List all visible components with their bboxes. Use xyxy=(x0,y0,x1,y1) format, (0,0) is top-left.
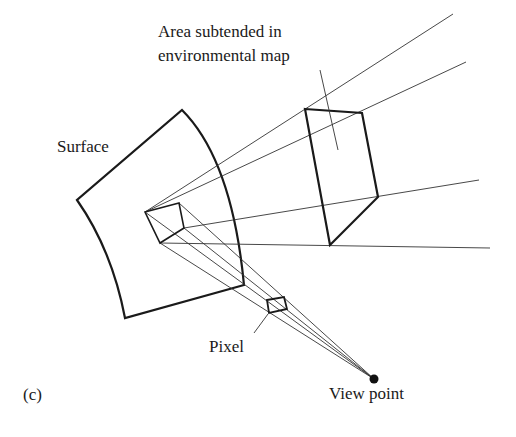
area-label-line2: environmental map xyxy=(158,46,290,66)
viewpoint-label: View point xyxy=(329,384,404,404)
view-rays xyxy=(145,203,374,379)
pixel-label: Pixel xyxy=(209,337,244,357)
pixel-square xyxy=(267,297,287,313)
pixel-leader-line xyxy=(254,314,268,333)
viewpoint-dot xyxy=(370,375,379,384)
surface-label: Surface xyxy=(57,137,109,157)
panel-label: (c) xyxy=(23,385,42,405)
area-label-line1: Area subtended in xyxy=(158,22,282,42)
environment-map-area xyxy=(305,109,378,245)
